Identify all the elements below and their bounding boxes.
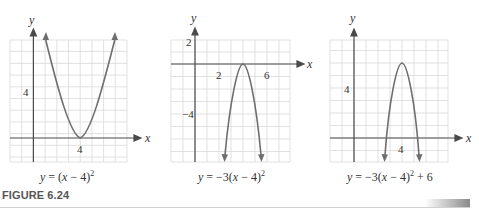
x-tick-2: 2 [216, 69, 222, 81]
equation-caption-3: y = −3(x − 4)2 + 6 [347, 170, 433, 185]
graph-3-plot: y x 4 4 [320, 0, 479, 170]
x-tick-6: 6 [264, 69, 270, 81]
x-axis-label: x [306, 57, 313, 71]
equation-caption-1: y = (x − 4)2 [40, 170, 94, 185]
divider-rule [0, 207, 470, 208]
y-tick-4: 4 [344, 83, 350, 95]
y-tick-4: 4 [23, 86, 29, 98]
equation-caption-2: y = −3(x − 4)2 [198, 170, 265, 185]
axes [10, 29, 141, 162]
x-axis-label: x [465, 131, 472, 145]
graph-panel-3: y x 4 4 [320, 0, 479, 170]
arrow-icon [382, 154, 389, 162]
x-tick-4: 4 [398, 143, 404, 155]
arrow-icon [258, 154, 265, 162]
y-tick-neg4: −4 [182, 108, 194, 120]
axes [330, 29, 462, 162]
arrow-icon [416, 154, 423, 162]
y-axis-label: y [190, 11, 197, 25]
grid [171, 40, 290, 162]
graph-panel-1: y x 4 4 [0, 0, 160, 170]
graph-2-plot: y x 2 −4 2 6 [160, 0, 320, 170]
axes [171, 28, 304, 162]
y-axis-label: y [28, 13, 35, 27]
grid [330, 40, 448, 162]
arrow-icon [112, 32, 119, 40]
arrow-icon [222, 154, 229, 162]
x-tick-4: 4 [77, 143, 83, 155]
x-axis-label: x [144, 131, 151, 145]
y-tick-2: 2 [186, 36, 192, 48]
graph-1-plot: y x 4 4 [0, 0, 160, 170]
decorative-gradient-bar [425, 199, 470, 207]
figure-label: FIGURE 6.24 [2, 189, 69, 201]
y-axis-label: y [349, 11, 356, 25]
arrow-icon [43, 32, 50, 40]
graph-panel-2: y x 2 −4 2 6 [160, 0, 320, 170]
